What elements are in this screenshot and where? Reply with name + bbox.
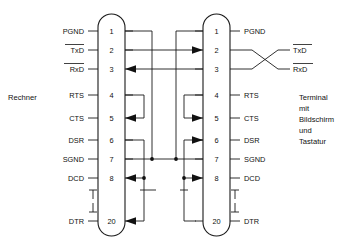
- right-label-dtr: DTR: [244, 217, 259, 226]
- junction-dot-dcd-left: [142, 176, 146, 180]
- left-pinnum-1: 1: [109, 27, 113, 36]
- arrow-cts-left: [125, 114, 136, 122]
- left-pin-stems: [88, 31, 98, 221]
- left-pinnum-7: 7: [109, 155, 113, 164]
- left-pinnum-3: 3: [109, 65, 113, 74]
- serial-cable-wiring-diagram: 1 2 3 4 5 6 7 8 20 1 2 3 4 5 6 7 8 20 PG…: [0, 0, 345, 251]
- wire-dsr-dcd-dtr-left: [125, 140, 148, 225]
- right-label-sgnd: SGND: [244, 155, 265, 164]
- arrow-dsr-right: [192, 136, 203, 144]
- left-pinnum-20: 20: [107, 217, 115, 226]
- wire-pgnd-left: [125, 31, 156, 190]
- left-label-dtr: DTR: [69, 217, 84, 226]
- left-pinnum-2: 2: [109, 46, 113, 55]
- left-pinnum-4: 4: [109, 91, 113, 100]
- wire-rts-cts-right: [184, 95, 203, 122]
- wire-sgnd-bus: [125, 157, 203, 161]
- right-pinnum-6: 6: [214, 136, 218, 145]
- right-label-dcd: DCD: [244, 174, 260, 183]
- caption-terminal-line-3: Bildschirm: [299, 115, 334, 124]
- right-label-dsr: DSR: [244, 136, 260, 145]
- right-pinnum-4: 4: [214, 91, 218, 100]
- right-pinnum-5: 5: [214, 114, 218, 123]
- arrow-dcd-left: [125, 174, 136, 182]
- left-pin-numbers: 1 2 3 4 5 6 7 8 20: [107, 27, 115, 226]
- left-label-rxd: RxD: [70, 65, 84, 74]
- caption-terminal-line-1: Terminal: [299, 93, 328, 102]
- junction-dot-sgnd-left: [150, 157, 154, 161]
- right-pinnum-7: 7: [214, 155, 218, 164]
- left-label-sgnd: SGND: [63, 155, 84, 164]
- right-label-rts: RTS: [244, 91, 259, 100]
- right-label-rxd: RxD: [293, 65, 307, 74]
- left-label-rts: RTS: [69, 91, 84, 100]
- wire-rxd-right-to-left: [125, 65, 203, 73]
- right-label-pgnd: PGND: [244, 27, 265, 36]
- caption-terminal-line-4: und: [299, 126, 312, 135]
- diagram-canvas: 1 2 3 4 5 6 7 8 20 1 2 3 4 5 6 7 8 20 PG…: [0, 0, 345, 251]
- wire-dsr-dcd-dtr-right: [180, 136, 203, 221]
- left-label-cts: CTS: [69, 114, 84, 123]
- left-label-pgnd: PGND: [63, 27, 84, 36]
- right-pinnum-1: 1: [214, 27, 218, 36]
- caption-terminal-line-5: Tastatur: [299, 137, 326, 146]
- right-pin-numbers: 1 2 3 4 5 6 7 8 20: [212, 27, 220, 226]
- caption-terminal-line-2: mit: [299, 104, 310, 113]
- arrow-rxd-left: [125, 65, 136, 73]
- right-pinnum-20: 20: [212, 217, 220, 226]
- arrow-cts-right: [192, 114, 203, 122]
- caption-rechner: Rechner: [8, 93, 37, 102]
- left-label-txd: TxD: [70, 46, 84, 55]
- inner-pin-stubs: [125, 31, 203, 221]
- left-pinnum-6: 6: [109, 136, 113, 145]
- wire-txd-left-to-right: [125, 46, 203, 54]
- left-signal-labels: PGND TxD RxD RTS CTS DSR SGND DCD DTR: [63, 27, 84, 226]
- arrow-dcd-right: [192, 174, 203, 182]
- wire-rts-cts-left: [125, 95, 144, 122]
- right-label-txd: TxD: [293, 46, 307, 55]
- left-pinnum-5: 5: [109, 114, 113, 123]
- arrow-txd-right: [192, 46, 203, 54]
- txd-rxd-crossover: [240, 50, 290, 69]
- left-pinnum-8: 8: [109, 174, 113, 183]
- arrow-dtr-left: [125, 217, 136, 225]
- right-label-cts: CTS: [244, 114, 259, 123]
- junction-dot-dcd-right: [182, 176, 186, 180]
- right-pin-stems: [230, 31, 240, 221]
- right-pinnum-3: 3: [214, 65, 218, 74]
- right-pinnum-8: 8: [214, 174, 218, 183]
- left-label-dsr: DSR: [68, 136, 84, 145]
- caption-terminal: Terminal mit Bildschirm und Tastatur: [299, 93, 334, 146]
- left-label-dcd: DCD: [68, 174, 84, 183]
- right-pinnum-2: 2: [214, 46, 218, 55]
- junction-dot-sgnd-right: [174, 157, 178, 161]
